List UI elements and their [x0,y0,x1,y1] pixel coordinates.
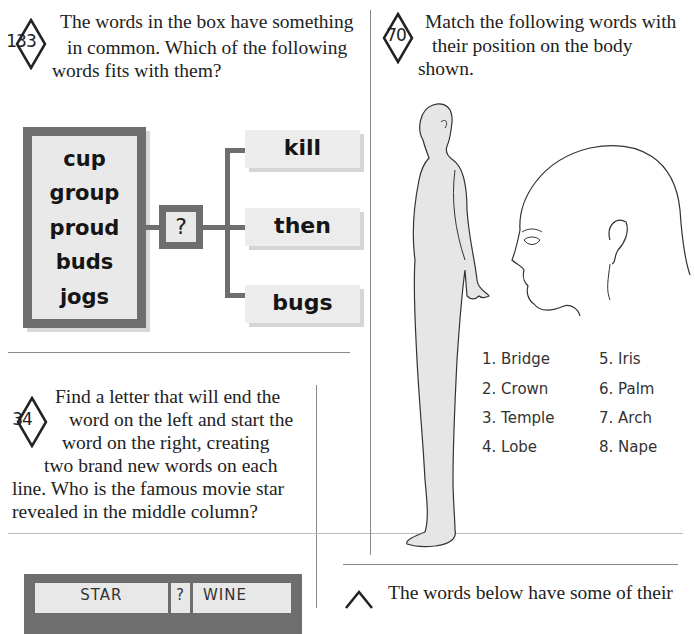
question-line: The words below have some of their [388,581,673,604]
answer-option[interactable]: bugs [245,285,360,323]
question-line: line. Who is the famous movie star [12,477,284,500]
question-line: their position on the body [432,34,632,57]
question-line: Match the following words with [425,10,676,33]
body-label: 1. Bridge [482,350,550,368]
section-divider [8,533,683,534]
diamond-icon [344,584,374,614]
body-label: 6. Palm [599,380,654,398]
question-line: shown. [418,57,474,80]
bracket-line [225,148,245,153]
body-label: 5. Iris [599,350,641,368]
body-label: 3. Temple [482,409,554,427]
puzzle-number-badge: 133 [3,18,47,70]
section-divider [343,564,678,565]
box-word: jogs [60,285,109,309]
question-line: in common. Which of the following [67,36,347,59]
bracket-line [225,148,230,298]
box-word: buds [56,250,114,274]
question-line: The words in the box have something [60,10,354,33]
grid-row: STAR ? WINE [35,583,291,613]
body-label: 7. Arch [599,409,652,427]
puzzle-number: 133 [0,31,43,51]
puzzle-number-badge: 70 [376,12,420,64]
puzzle-number: 34 [0,409,44,429]
question-line: two brand new words on each [44,454,277,477]
question-line: word on the right, creating [62,431,269,454]
body-label: 4. Lobe [482,438,537,456]
puzzle-number: 70 [374,25,418,45]
answer-option[interactable]: kill [245,130,360,168]
grid-right-word: WINE [193,583,291,613]
body-figure-illustration [395,100,495,550]
question-mark-box: ? [159,205,203,249]
box-word: cup [63,147,105,171]
body-label: 8. Nape [599,438,657,456]
connector-line [146,225,159,230]
section-divider [8,352,350,353]
question-line: word on the left and start the [69,408,293,431]
question-mark: ? [166,212,196,242]
puzzle-question: words fits with them? [52,59,222,82]
word-grid: STAR ? WINE [24,574,302,634]
grid-left-word: STAR [35,583,168,613]
answer-option[interactable]: then [245,208,360,246]
column-divider [370,10,371,555]
head-profile-illustration [510,140,695,320]
word-box: cup group proud buds jogs [23,127,146,328]
puzzle-number-badge: 34 [6,396,50,448]
connector-line [203,225,245,230]
question-line: Find a letter that will end the [55,385,280,408]
question-line: words fits with them? [52,59,222,82]
question-line: revealed in the middle column? [12,500,258,523]
bracket-line [225,293,245,298]
grid-middle-letter[interactable]: ? [171,583,190,613]
box-word: group [50,181,120,205]
body-label: 2. Crown [482,380,548,398]
puzzle-question: The words in the box have something [60,10,354,33]
box-word: proud [50,216,120,240]
column-divider [316,385,317,608]
puzzle-question: in common. Which of the following [67,36,347,59]
